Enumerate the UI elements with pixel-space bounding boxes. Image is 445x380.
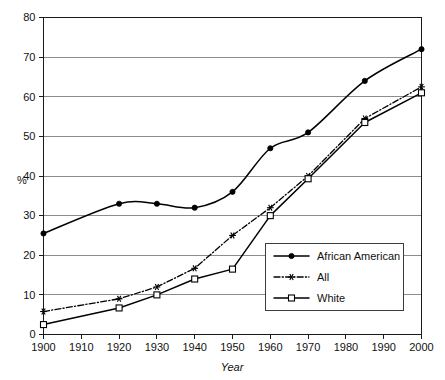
legend-label-african-american: African American bbox=[317, 250, 400, 262]
x-tick-label-1920: 1920 bbox=[107, 341, 131, 353]
series-white-pt8-marker-square bbox=[419, 90, 425, 96]
x-tick-label-1970: 1970 bbox=[296, 341, 320, 353]
x-axis-title: Year bbox=[221, 361, 245, 373]
y-axis-label: % bbox=[17, 174, 27, 186]
x-axis-tick-labels: 1900191019201930194019501960197019801990… bbox=[31, 341, 433, 353]
x-tick-label-1930: 1930 bbox=[145, 341, 169, 353]
series-african-american-pt5-marker-dot bbox=[268, 146, 273, 151]
series-white-pt6-marker-square bbox=[305, 176, 311, 182]
series-white-pt4-marker-square bbox=[230, 266, 236, 272]
x-tick-label-1990: 1990 bbox=[371, 341, 395, 353]
legend-swatch-white-marker-square bbox=[289, 295, 295, 301]
y-tick-label-30: 30 bbox=[23, 209, 35, 221]
legend-swatch-african-american-marker-dot bbox=[289, 253, 294, 258]
x-tick-label-1910: 1910 bbox=[69, 341, 93, 353]
series-white-pt7-marker-square bbox=[362, 120, 368, 126]
y-tick-label-60: 60 bbox=[23, 91, 35, 103]
chart-legend: African AmericanAllWhite bbox=[265, 243, 403, 310]
y-tick-label-0: 0 bbox=[29, 328, 35, 340]
legend-label-white: White bbox=[317, 292, 345, 304]
series-white-pt5-marker-square bbox=[267, 213, 273, 219]
series-african-american-pt4-marker-dot bbox=[230, 189, 235, 194]
series-african-american-pt3-marker-dot bbox=[192, 205, 197, 210]
x-tick-label-2000: 2000 bbox=[409, 341, 433, 353]
x-tick-label-1940: 1940 bbox=[182, 341, 206, 353]
series-african-american-pt8-marker-dot bbox=[419, 47, 424, 52]
x-tick-label-1950: 1950 bbox=[220, 341, 244, 353]
y-tick-label-10: 10 bbox=[23, 289, 35, 301]
y-tick-label-50: 50 bbox=[23, 130, 35, 142]
series-white-pt2-marker-square bbox=[154, 292, 160, 298]
y-tick-label-20: 20 bbox=[23, 249, 35, 261]
series-white-pt0-marker-square bbox=[41, 322, 47, 328]
series-african-american-pt6-marker-dot bbox=[306, 130, 311, 135]
series-white-pt1-marker-square bbox=[116, 305, 122, 311]
legend-label-all: All bbox=[317, 271, 329, 283]
x-tick-label-1960: 1960 bbox=[258, 341, 282, 353]
series-african-american-pt2-marker-dot bbox=[154, 201, 159, 206]
series-african-american-pt0-marker-dot bbox=[41, 231, 46, 236]
line-chart-figure: 1900191019201930194019501960197019801990… bbox=[0, 0, 445, 380]
y-tick-label-70: 70 bbox=[23, 51, 35, 63]
series-african-american-pt7-marker-dot bbox=[362, 78, 367, 83]
series-african-american-pt1-marker-dot bbox=[117, 201, 122, 206]
series-white-pt3-marker-square bbox=[192, 276, 198, 282]
y-tick-label-80: 80 bbox=[23, 11, 35, 23]
chart-canvas: 1900191019201930194019501960197019801990… bbox=[0, 0, 445, 380]
x-tick-label-1900: 1900 bbox=[31, 341, 55, 353]
x-tick-label-1980: 1980 bbox=[334, 341, 358, 353]
